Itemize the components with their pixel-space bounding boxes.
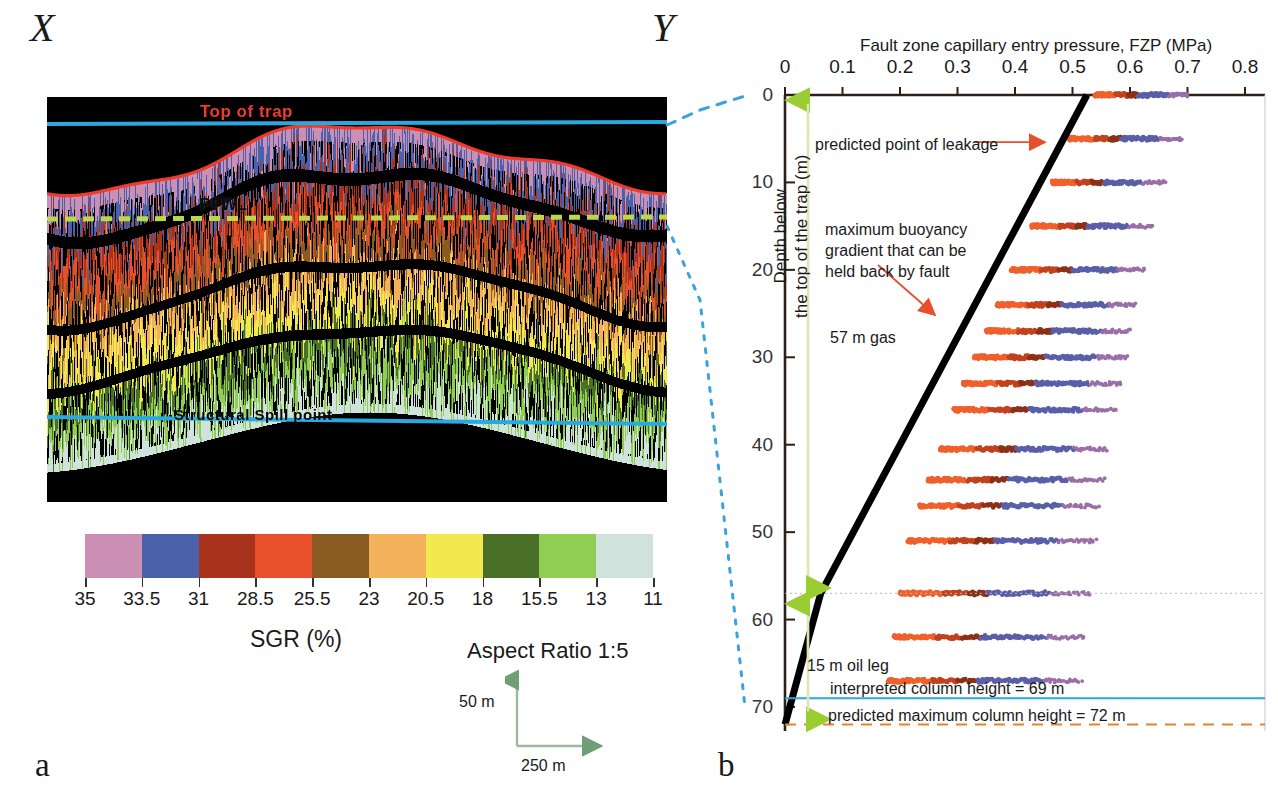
annotation-max-buoyancy: maximum buoyancygradient that can beheld… (825, 220, 967, 282)
x-tick-label: 0.3 (944, 56, 970, 78)
sgr-cross-section-image (47, 97, 667, 502)
sgr-legend-swatch-0 (85, 534, 142, 578)
panel-b-letter: b (718, 749, 735, 782)
fzp-sample-point (1142, 266, 1146, 270)
fzp-depth-plot (700, 0, 1278, 796)
y-axis-label: Depth belowthe top of the trap (m) (770, 141, 813, 331)
fzp-sample-point (1069, 503, 1073, 507)
x-tick-label: 0.1 (829, 56, 855, 78)
annotation-predicted-max-column-height: predicted maximum column height = 72 m (828, 706, 1125, 727)
fzp-sample-point (1111, 328, 1115, 332)
sgr-colour-legend (85, 534, 653, 578)
x-tick-label: 0.5 (1059, 56, 1085, 78)
sgr-legend-swatch-9 (596, 534, 653, 578)
y-axis-label-line: the top of the trap (m) (792, 155, 811, 318)
panel-a-cross-section: X Y Top of trap PFWL Structural Spill po… (0, 0, 700, 796)
panel-a-letter: a (35, 749, 50, 782)
annotation-interpreted-column-height: interpreted column height = 69 m (830, 679, 1064, 700)
fzp-sample-point (1180, 137, 1184, 141)
sgr-legend-tick (199, 578, 201, 587)
sgr-legend-swatch-6 (426, 534, 483, 578)
x-tick-label: 0.4 (1002, 56, 1028, 78)
sgr-legend-tick-labels: 3533.53128.525.52320.51815.51311 (40, 588, 700, 614)
sgr-legend-tick-label: 15.5 (521, 588, 558, 610)
pfwl-label: PFWL (200, 196, 247, 214)
fzp-sample-point (1093, 383, 1097, 387)
top-of-trap-label: Top of trap (200, 102, 293, 122)
fzp-sample-point (1085, 538, 1089, 542)
sgr-legend-swatch-2 (199, 534, 256, 578)
fzp-sample-point (1082, 635, 1086, 639)
fzp-sample-point (1134, 301, 1138, 305)
fzp-sample-point (1105, 449, 1109, 453)
sgr-legend-swatch-7 (483, 534, 540, 578)
sgr-legend-swatch-4 (312, 534, 369, 578)
scale-vertical-label: 50 m (459, 693, 495, 711)
fzp-sample-point (1091, 540, 1095, 544)
sgr-legend-tick-label: 11 (643, 588, 663, 610)
x-tick-label: 0.2 (887, 56, 913, 78)
sgr-legend-tick-label: 25.5 (294, 588, 331, 610)
y-tick-label: 30 (733, 346, 773, 368)
sgr-legend-tick (369, 578, 371, 587)
fzp-sample-point (1095, 537, 1099, 541)
fzp-sample-point (1080, 506, 1084, 510)
x-tick-label: 0.7 (1174, 56, 1200, 78)
sgr-legend-swatch-1 (142, 534, 199, 578)
annotation-gas-column: 57 m gas (830, 328, 896, 349)
figure-root: X Y Top of trap PFWL Structural Spill po… (0, 0, 1278, 796)
fzp-sample-point (1126, 354, 1130, 358)
fzp-sample-point (1104, 383, 1108, 387)
x-tick-label: 0 (780, 56, 791, 78)
annotation-line: maximum buoyancy (825, 221, 967, 238)
sgr-legend-tick-label: 18 (472, 588, 493, 610)
y-tick-label: 0 (733, 84, 773, 106)
sgr-legend-tick-label: 13 (586, 588, 607, 610)
y-tick-label: 50 (733, 521, 773, 543)
fzp-sample-point (1101, 331, 1105, 335)
sgr-legend-tick (142, 578, 144, 587)
section-end-label: Y (652, 8, 674, 48)
section-start-label: X (30, 8, 54, 48)
fzp-sample-point (1128, 328, 1132, 332)
sgr-legend-tick (596, 578, 598, 587)
sgr-legend-tick-label: 28.5 (237, 588, 274, 610)
annotation-line: held back by fault (825, 263, 950, 280)
fzp-sample-point (1097, 505, 1101, 509)
sgr-legend-tick-label: 20.5 (407, 588, 444, 610)
sgr-legend-ticks (85, 578, 653, 587)
fzp-sample-point (1077, 680, 1081, 684)
panel-b-fzp-plot: Fault zone capillary entry pressure, FZP… (700, 0, 1278, 796)
y-tick-label: 40 (733, 434, 773, 456)
y-tick-label: 10 (733, 171, 773, 193)
fzp-sample-point (1056, 503, 1060, 507)
scale-bar-arrows (505, 660, 625, 758)
x-tick-label: 0.8 (1232, 56, 1258, 78)
annotation-line: gradient that can be (825, 242, 966, 259)
y-tick-label: 20 (733, 259, 773, 281)
sgr-legend-swatch-8 (539, 534, 596, 578)
structural-spill-point-label: Structural Spill point (174, 406, 333, 423)
sgr-legend-tick-label: 31 (188, 588, 209, 610)
fzp-sample-point (1114, 408, 1118, 412)
sgr-legend-swatch-3 (255, 534, 312, 578)
fzp-sample-point (1186, 92, 1190, 96)
fzp-sample-point (1164, 180, 1168, 184)
sgr-legend-tick (483, 578, 485, 587)
sgr-legend-tick (653, 578, 655, 587)
y-tick-label: 60 (733, 609, 773, 631)
y-tick-label: 70 (733, 696, 773, 718)
annotation-predicted-leakage: predicted point of leakage (815, 135, 998, 156)
x-tick-label: 0.6 (1117, 56, 1143, 78)
sgr-legend-caption: SGR (%) (250, 626, 342, 653)
y-axis-label-line: Depth below (771, 189, 790, 284)
sgr-legend-tick-label: 33.5 (123, 588, 160, 610)
scale-horizontal-label: 250 m (521, 757, 565, 775)
fzp-sample-point (1151, 224, 1155, 228)
sgr-legend-tick (255, 578, 257, 587)
fzp-sample-point (1103, 476, 1107, 480)
sgr-legend-tick (539, 578, 541, 587)
sgr-legend-tick-label: 35 (74, 588, 95, 610)
sgr-legend-tick (85, 578, 87, 587)
annotation-oil-leg: 15 m oil leg (807, 656, 889, 677)
